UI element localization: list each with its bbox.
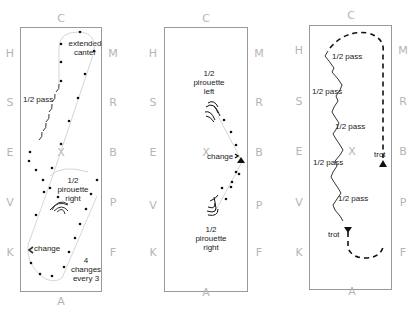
right-path-drawing bbox=[0, 0, 413, 313]
